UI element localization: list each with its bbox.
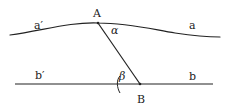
label-beta: β: [118, 70, 125, 83]
label-a: a: [189, 19, 196, 32]
point-b: [139, 83, 142, 86]
label-point-a: A: [92, 7, 102, 20]
label-point-b: B: [137, 93, 145, 106]
geometry-diagram: a′ A α a b′ β b B: [0, 0, 237, 109]
label-b: b: [189, 70, 196, 83]
point-a: [97, 22, 100, 25]
label-a-prime: a′: [34, 19, 44, 32]
label-b-prime: b′: [35, 69, 45, 82]
label-alpha: α: [111, 24, 119, 37]
